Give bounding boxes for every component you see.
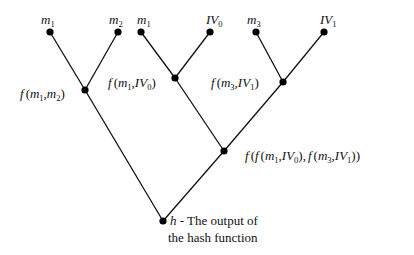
- internal-labels: f(m1,m2) f(m1,IV0) f(m3,IV1) f(f(m1,IV0)…: [20, 75, 360, 165]
- node-f-combined: [220, 147, 227, 154]
- edge-iv0-to-fiv0: [175, 32, 210, 78]
- node-root-h: [159, 217, 166, 224]
- leaf-labels: m1 m2 m1 IV0 m3 IV1: [41, 12, 337, 29]
- node-leaf-m2: [114, 28, 121, 35]
- root-label: h - The output of the hash function: [168, 213, 259, 245]
- label-root-line1: h - The output of: [170, 213, 259, 228]
- node-leaf-m3: [252, 28, 259, 35]
- node-leaf-iv0: [206, 28, 213, 35]
- edge-iv1-to-fiv1: [283, 32, 324, 82]
- label-leaf-iv0: IV0: [205, 12, 223, 29]
- label-f-combined: f(f(m1,IV0),f(m3,IV1)): [245, 148, 360, 165]
- edge-m3-to-fiv1: [256, 32, 283, 82]
- edge-f12-to-h: [85, 90, 163, 221]
- edge-fcomb-to-h: [163, 151, 224, 221]
- label-leaf-m2: m2: [109, 12, 123, 29]
- node-f-m3-iv1: [279, 78, 286, 85]
- node-f-m1-iv0: [171, 74, 178, 81]
- node-leaf-iv1: [320, 28, 327, 35]
- label-leaf-iv1: IV1: [319, 12, 337, 29]
- tree-edges: [50, 32, 324, 221]
- label-leaf-m1-a: m1: [41, 12, 55, 29]
- node-leaf-m1-b: [137, 28, 144, 35]
- label-root-line2: the hash function: [168, 230, 258, 245]
- edge-m1a-to-f12: [50, 32, 85, 90]
- label-leaf-m3: m3: [247, 12, 261, 29]
- edge-m1b-to-fiv0: [141, 32, 175, 78]
- label-leaf-m1-b: m1: [137, 12, 151, 29]
- label-f-m1-m2: f(m1,m2): [20, 86, 65, 103]
- edge-fiv1-to-fcomb: [224, 82, 283, 151]
- label-f-m3-iv1: f(m3,IV1): [211, 75, 259, 92]
- label-f-m1-iv0: f(m1,IV0): [108, 75, 156, 92]
- hash-tree-diagram: m1 m2 m1 IV0 m3 IV1 f(m1,m2) f(m1,IV0) f…: [0, 0, 414, 255]
- node-f-m1-m2: [81, 86, 88, 93]
- tree-nodes: [46, 28, 327, 224]
- node-leaf-m1-a: [46, 28, 53, 35]
